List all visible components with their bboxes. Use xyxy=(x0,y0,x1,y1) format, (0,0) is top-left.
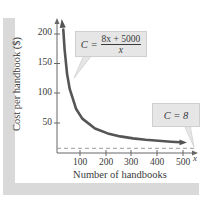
x-tick-label: 300 xyxy=(119,157,143,167)
curve-arrow-right-icon xyxy=(180,140,188,146)
y-axis-label: Cost per handbook ($) xyxy=(11,29,25,139)
curve-arrow-up-icon xyxy=(60,19,66,28)
y-tick-label: 150 xyxy=(30,57,52,67)
y-tick-label: 100 xyxy=(30,87,52,97)
x-tick-label: 100 xyxy=(68,157,92,167)
x-variable-label: x xyxy=(193,153,197,163)
asymptote-equation: C = 8 xyxy=(164,110,189,121)
equation-lhs: C = xyxy=(81,39,98,50)
x-tick-label: 500 xyxy=(171,157,195,167)
y-tick-label: 200 xyxy=(30,27,52,37)
equation-fraction: 8x + 5000 x xyxy=(101,34,142,55)
x-tick-label: 400 xyxy=(145,157,169,167)
callout-c8-pointer xyxy=(184,125,194,147)
y-tick-label: 50 xyxy=(30,117,52,127)
y-axis-arrow-icon xyxy=(55,18,60,24)
x-axis-label: Number of handbooks xyxy=(60,169,180,180)
asymptote-callout: C = 8 xyxy=(152,103,200,127)
equation-numerator: 8x + 5000 xyxy=(101,34,142,45)
callout-eq-pointer xyxy=(74,55,92,78)
equation-callout: C = 8x + 5000 x xyxy=(75,31,147,57)
x-tick-label: 200 xyxy=(94,157,118,167)
equation-denominator: x xyxy=(119,45,123,55)
